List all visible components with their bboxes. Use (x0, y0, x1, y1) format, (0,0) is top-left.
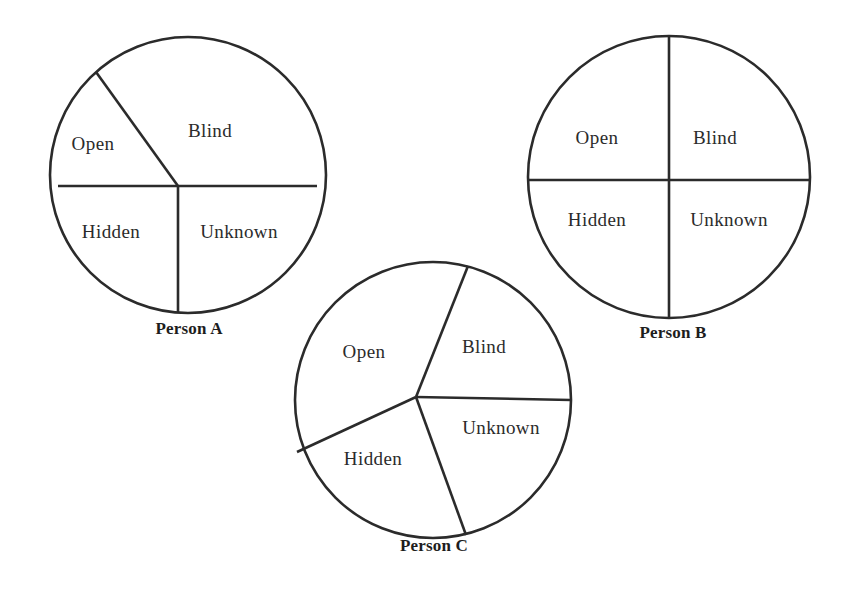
person-c-label-open: Open (343, 341, 386, 362)
person-a-label-unknown: Unknown (200, 221, 278, 242)
person-a-label-blind: Blind (188, 120, 232, 141)
person-a-label-open: Open (72, 133, 115, 154)
person-c-label-blind: Blind (462, 336, 506, 357)
person-c-caption: Person C (400, 536, 468, 555)
person-a-label-hidden: Hidden (82, 221, 140, 242)
person-a-caption: Person A (155, 319, 223, 338)
person-b-label-hidden: Hidden (568, 209, 626, 230)
person-b-label-unknown: Unknown (690, 209, 768, 230)
person-b-label-open: Open (576, 127, 619, 148)
person-c-label-unknown: Unknown (462, 417, 540, 438)
person-b-group: Open Blind Hidden Unknown Person B (528, 36, 810, 342)
person-b-caption: Person B (639, 323, 706, 342)
person-c-label-hidden: Hidden (344, 448, 402, 469)
person-b-label-blind: Blind (693, 127, 737, 148)
person-a-group: Open Blind Hidden Unknown Person A (50, 37, 326, 338)
person-c-group: Open Blind Hidden Unknown Person C (295, 262, 571, 555)
person-a-circle (50, 37, 326, 313)
diagram-canvas: Open Blind Hidden Unknown Person A Open … (0, 0, 850, 598)
johari-window-figure: Open Blind Hidden Unknown Person A Open … (0, 0, 850, 598)
